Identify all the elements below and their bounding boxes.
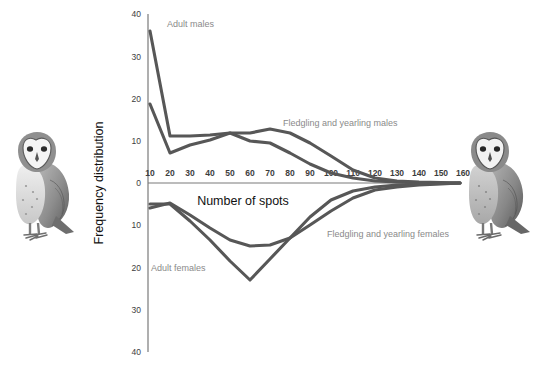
x-tick-40: 40 <box>205 168 215 178</box>
y-tick-40-up: 40 <box>132 9 142 19</box>
series-label-adult-males: Adult males <box>167 19 215 29</box>
x-tick-10: 10 <box>145 168 155 178</box>
x-tick-160: 160 <box>456 168 470 178</box>
x-tick-labels: 10 20 30 40 50 60 70 80 90 100 110 120 1… <box>145 168 470 178</box>
x-tick-60: 60 <box>245 168 255 178</box>
series-label-fledgling-females: Fledgling and yearling females <box>327 229 450 239</box>
y-tick-40-down: 40 <box>132 347 142 357</box>
y-tick-zero: 0 <box>136 178 141 188</box>
figure-container: 40 30 20 10 0 10 20 30 40 10 20 30 40 50… <box>0 0 540 369</box>
x-tick-20: 20 <box>165 168 175 178</box>
x-tick-130: 130 <box>390 168 404 178</box>
y-tick-20-up: 20 <box>132 94 142 104</box>
y-tick-labels: 40 30 20 10 0 10 20 30 40 <box>132 9 142 357</box>
x-tick-80: 80 <box>285 168 295 178</box>
x-tick-30: 30 <box>185 168 195 178</box>
y-tick-30-down: 30 <box>132 305 142 315</box>
y-tick-20-down: 20 <box>132 263 142 273</box>
x-tick-70: 70 <box>265 168 275 178</box>
x-axis-title: Number of spots <box>197 194 289 208</box>
x-tick-150: 150 <box>434 168 448 178</box>
y-tick-10-down: 10 <box>132 220 142 230</box>
x-tick-140: 140 <box>412 168 426 178</box>
chart-svg: 40 30 20 10 0 10 20 30 40 10 20 30 40 50… <box>0 0 540 369</box>
series-label-fledgling-males: Fledgling and yearling males <box>283 118 398 128</box>
y-axis-title: Frequency distribution <box>92 121 106 244</box>
x-tick-50: 50 <box>225 168 235 178</box>
x-tick-90: 90 <box>305 168 315 178</box>
y-tick-30-up: 30 <box>132 52 142 62</box>
series-label-adult-females: Adult females <box>151 263 206 273</box>
y-tick-10-up: 10 <box>132 136 142 146</box>
series-line-adult-males <box>150 31 460 183</box>
